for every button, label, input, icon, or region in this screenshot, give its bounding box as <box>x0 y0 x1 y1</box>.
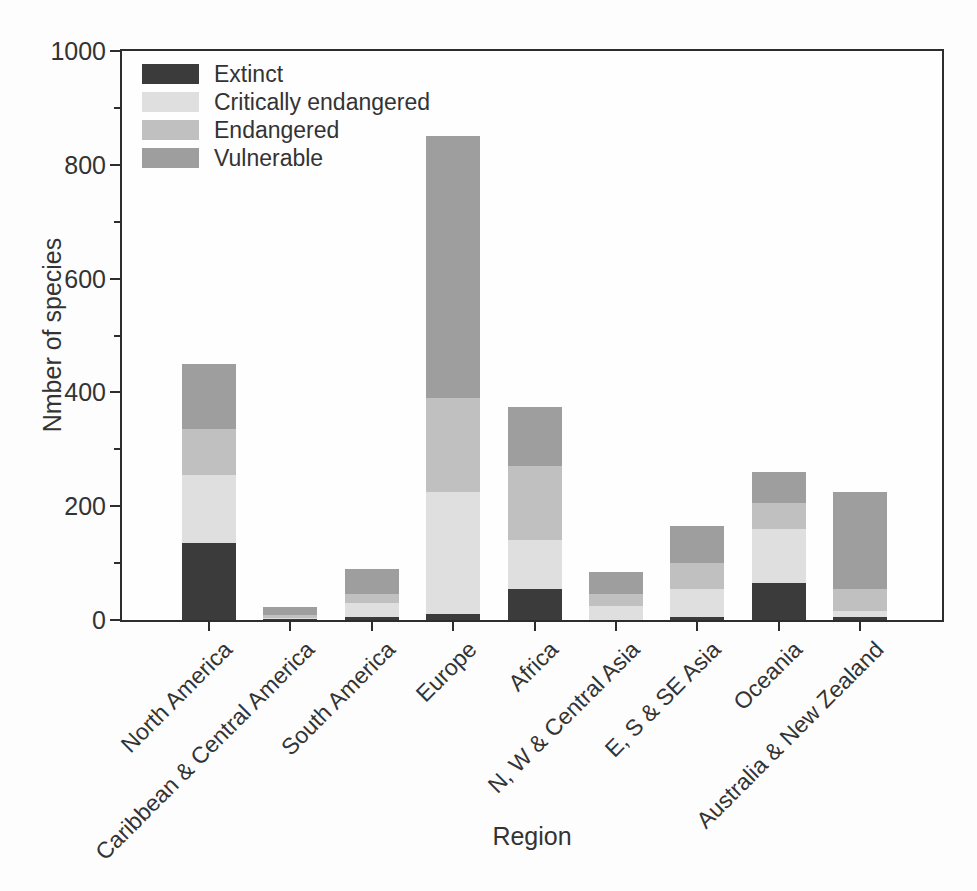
legend-swatch <box>142 148 199 168</box>
legend-item: Vulnerable <box>142 148 430 168</box>
x-axis-tick <box>534 622 536 631</box>
y-axis-tick <box>110 619 120 621</box>
legend-swatch <box>142 120 199 140</box>
bar-segment <box>833 589 887 612</box>
x-tick-label: Oceania <box>728 636 807 715</box>
bar-segment <box>752 583 806 620</box>
bar-segment <box>670 589 724 617</box>
bar-segment <box>670 617 724 620</box>
y-axis-minor-tick <box>114 107 120 109</box>
legend-item: Critically endangered <box>142 92 430 112</box>
legend-label: Endangered <box>214 117 339 144</box>
x-axis-label: Region <box>120 822 944 851</box>
y-axis-tick <box>110 50 120 52</box>
bar-segment <box>833 617 887 620</box>
bar-segment <box>345 603 399 617</box>
legend: ExtinctCritically endangeredEndangeredVu… <box>142 64 430 176</box>
y-tick-label: 600 <box>34 265 106 293</box>
x-axis-tick <box>452 622 454 631</box>
bar-segment <box>426 136 480 398</box>
y-tick-label: 200 <box>34 492 106 520</box>
bar-segment <box>670 563 724 589</box>
bar-segment <box>589 606 643 620</box>
y-tick-label: 1000 <box>34 37 106 65</box>
x-axis-tick <box>289 622 291 631</box>
y-axis-minor-tick <box>114 562 120 564</box>
bar-segment <box>508 589 562 620</box>
bar-segment <box>263 619 317 620</box>
bar-segment <box>263 615 317 617</box>
bar-segment <box>426 614 480 620</box>
bar-segment <box>508 407 562 467</box>
legend-item: Extinct <box>142 64 430 84</box>
legend-item: Endangered <box>142 120 430 140</box>
y-axis-minor-tick <box>114 221 120 223</box>
bar-segment <box>589 594 643 605</box>
legend-swatch <box>142 64 199 84</box>
y-axis-tick <box>110 278 120 280</box>
species-threat-stacked-bar-chart: Nmber of species Region 0200400600800100… <box>0 0 977 891</box>
x-axis-tick <box>371 622 373 631</box>
bar-segment <box>752 503 806 529</box>
bar-segment <box>752 529 806 583</box>
y-tick-label: 400 <box>34 378 106 406</box>
x-axis-tick <box>696 622 698 631</box>
legend-label: Vulnerable <box>214 145 323 172</box>
x-tick-label: N, W & Central Asia <box>482 636 644 798</box>
y-tick-label: 800 <box>34 151 106 179</box>
bar-segment <box>752 472 806 503</box>
bar-segment <box>833 611 887 617</box>
y-axis-tick <box>110 505 120 507</box>
bar-segment <box>508 466 562 540</box>
bar-segment <box>589 572 643 595</box>
bar-segment <box>182 543 236 620</box>
y-axis-tick <box>110 391 120 393</box>
y-axis-minor-tick <box>114 448 120 450</box>
bar-segment <box>345 617 399 620</box>
x-axis-tick <box>778 622 780 631</box>
bar-segment <box>833 492 887 589</box>
bar-segment <box>263 607 317 615</box>
bar-segment <box>426 398 480 492</box>
bar-segment <box>263 618 317 620</box>
bar-segment <box>670 526 724 563</box>
x-tick-label: Africa <box>503 636 563 696</box>
bar-segment <box>508 540 562 588</box>
bar-segment <box>182 475 236 543</box>
legend-swatch <box>142 92 199 112</box>
bar-segment <box>182 364 236 429</box>
bar-segment <box>182 429 236 475</box>
bar-segment <box>426 492 480 614</box>
legend-label: Critically endangered <box>214 89 430 116</box>
y-tick-label: 0 <box>34 606 106 634</box>
x-tick-label: Europe <box>411 636 482 707</box>
y-axis-tick <box>110 164 120 166</box>
bar-segment <box>345 594 399 603</box>
x-axis-tick <box>615 622 617 631</box>
x-axis-tick <box>208 622 210 631</box>
y-axis-minor-tick <box>114 335 120 337</box>
legend-label: Extinct <box>214 61 283 88</box>
bar-segment <box>345 569 399 595</box>
x-axis-tick <box>859 622 861 631</box>
